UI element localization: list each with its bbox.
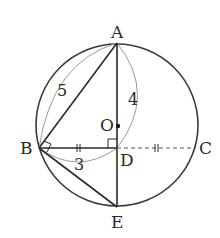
label-o: O bbox=[100, 115, 114, 135]
label-d: D bbox=[120, 150, 134, 170]
measure-bd: 3 bbox=[74, 155, 84, 174]
label-c: C bbox=[199, 138, 212, 158]
right-angle-mark-b bbox=[44, 141, 51, 152]
label-b: B bbox=[20, 138, 33, 158]
right-angle-mark-d bbox=[108, 139, 117, 148]
tick-mark-dc bbox=[155, 144, 158, 152]
label-a: A bbox=[110, 22, 124, 42]
measure-ad: 4 bbox=[128, 90, 138, 109]
geometry-diagram: A B C D E O 5 4 3 bbox=[0, 0, 220, 238]
label-e: E bbox=[111, 212, 123, 232]
measure-ab: 5 bbox=[57, 81, 67, 100]
center-point-o bbox=[116, 124, 120, 128]
